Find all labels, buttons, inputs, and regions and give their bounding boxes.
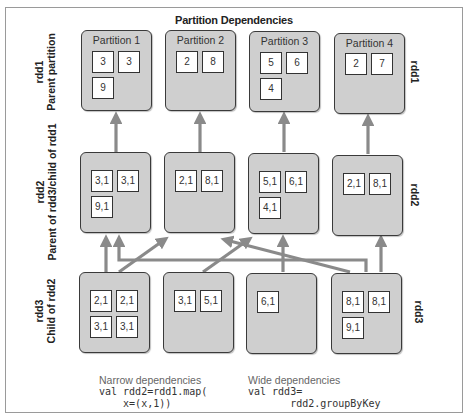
rdd1-partition-4: Partition 4 2 7	[334, 33, 405, 114]
cell: 2,1	[116, 290, 138, 312]
row-label-rdd2-desc: Parent of rdd3/child of rdd1	[46, 122, 58, 262]
row-label-rdd2-name: rdd2	[34, 122, 46, 262]
right-label-rdd3: rdd3	[413, 297, 425, 327]
rdd2-partition-2: 2,1 8,1	[164, 152, 235, 233]
cell: 5,1	[259, 171, 281, 193]
wide-dependencies-code-line2: rdd2.groupByKey	[248, 398, 380, 410]
cell: 9,1	[342, 317, 364, 339]
row-label-rdd3-name: rdd3	[33, 261, 45, 361]
cell: 9	[92, 77, 114, 99]
rdd2-partition-3: 5,1 6,1 4,1	[248, 153, 319, 234]
cell: 3,1	[90, 316, 112, 338]
cell: 5	[260, 52, 282, 74]
narrow-dependencies-caption: Narrow dependencies	[99, 374, 201, 386]
rdd3-partition-2: 3,1 5,1	[163, 272, 234, 353]
cell: 6	[286, 52, 308, 74]
cell: 4,1	[259, 197, 281, 219]
rdd1-partition-1: Partition 1 3 3 9	[81, 30, 152, 111]
right-label-rdd2: rdd2	[409, 180, 421, 210]
partition-label: Partition 1	[82, 34, 151, 46]
cell: 8	[202, 51, 224, 73]
rdd3-partition-3: 6,1	[246, 273, 317, 354]
wide-dependencies-caption: Wide dependencies	[248, 374, 340, 386]
cell: 3,1	[174, 290, 196, 312]
rdd1-partition-3: Partition 3 5 6 4	[249, 31, 320, 112]
cell: 2,1	[343, 173, 365, 195]
row-label-rdd1-name: rdd1	[33, 17, 45, 127]
cell: 2	[345, 53, 367, 75]
cell: 4	[260, 78, 282, 100]
cell: 5,1	[200, 290, 222, 312]
cell: 3,1	[91, 170, 113, 192]
cell: 9,1	[91, 196, 113, 218]
row-label-rdd1: rdd1 Parent partition	[33, 17, 59, 127]
cell: 7	[371, 53, 393, 75]
cell: 2	[176, 51, 198, 73]
rdd2-partition-1: 3,1 3,1 9,1	[80, 152, 151, 233]
rdd2-partition-4: 2,1 8,1	[332, 155, 403, 236]
cell: 3	[118, 51, 140, 73]
row-label-rdd2: rdd2 Parent of rdd3/child of rdd1	[34, 122, 60, 262]
narrow-dependencies-code-line1: val rdd2=rdd1.map(	[99, 386, 207, 398]
rdd1-partition-2: Partition 2 2 8	[165, 30, 236, 111]
partition-label: Partition 2	[166, 34, 235, 46]
row-label-rdd3: rdd3 Child of rdd2	[33, 261, 59, 361]
cell: 8,1	[201, 170, 223, 192]
cell: 3,1	[117, 170, 139, 192]
narrow-dependencies-code-line2: x=(x,1))	[99, 398, 171, 410]
rdd3-partition-4: 8,1 8,1 9,1	[331, 273, 402, 354]
arrow-rdd3p1-to-rdd2p2	[119, 240, 164, 272]
cell: 2,1	[90, 290, 112, 312]
cell: 8,1	[342, 291, 364, 313]
arrow-rdd3p4-to-rdd2p2	[226, 240, 350, 272]
partition-label: Partition 3	[250, 35, 319, 47]
row-label-rdd1-desc: Parent partition	[45, 17, 57, 127]
cell: 2,1	[175, 170, 197, 192]
row-label-rdd3-desc: Child of rdd2	[45, 261, 57, 361]
rdd3-partition-1: 2,1 2,1 3,1 3,1	[79, 272, 150, 353]
cell: 6,1	[257, 291, 279, 313]
partition-label: Partition 4	[335, 37, 404, 49]
cell: 6,1	[285, 171, 307, 193]
cell: 3	[92, 51, 114, 73]
right-label-rdd1: rdd1	[409, 57, 421, 87]
wide-dependencies-code-line1: val rdd3=	[248, 386, 302, 398]
cell: 8,1	[368, 291, 390, 313]
cell: 3,1	[116, 316, 138, 338]
cell: 8,1	[369, 173, 391, 195]
